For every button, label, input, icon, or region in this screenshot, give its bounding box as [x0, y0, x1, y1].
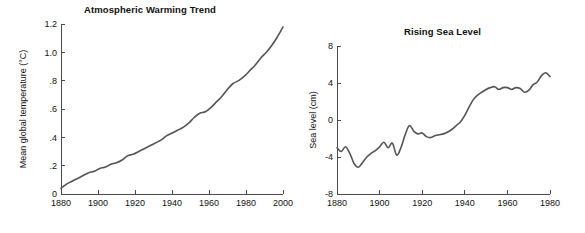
y-tick-label: .6 [49, 104, 57, 114]
climate-charts-figure: Atmospheric Warming Trend 0.2.4.6.81.01.… [0, 0, 585, 233]
data-series-line [337, 73, 550, 167]
x-tick-label: 1940 [455, 198, 475, 208]
x-tick-label: 1980 [540, 198, 560, 208]
x-tick-label: 1900 [88, 198, 108, 208]
y-tick-label: .8 [49, 76, 57, 86]
y-tick-label: 1.0 [44, 48, 57, 58]
y-tick-label: 4 [328, 78, 333, 88]
x-tick-label: 2000 [273, 198, 293, 208]
x-tick-label: 1920 [412, 198, 432, 208]
y-axis-title: Sea level (cm) [308, 91, 318, 149]
x-tick-label: 1980 [236, 198, 256, 208]
data-series-line [61, 27, 283, 189]
rising-sea-level-plot: -8-4048188019001920194019601980Sea level… [300, 0, 585, 233]
y-tick-label: 0 [328, 115, 333, 125]
chart-panel-rising-sea-level: Rising Sea Level -8-40481880190019201940… [300, 0, 585, 233]
chart-panel-atmospheric-warming: Atmospheric Warming Trend 0.2.4.6.81.01.… [0, 0, 300, 233]
x-tick-label: 1960 [497, 198, 517, 208]
y-tick-label: .4 [49, 133, 57, 143]
y-tick-label: -4 [325, 152, 333, 162]
y-tick-label: 8 [328, 41, 333, 51]
x-tick-label: 1920 [125, 198, 145, 208]
x-tick-label: 1880 [51, 198, 71, 208]
x-tick-label: 1900 [370, 198, 390, 208]
x-tick-label: 1940 [162, 198, 182, 208]
x-tick-label: 1880 [327, 198, 347, 208]
y-tick-label: 1.2 [44, 19, 57, 29]
x-tick-label: 1960 [199, 198, 219, 208]
atmospheric-warming-plot: 0.2.4.6.81.01.21880190019201940196019802… [0, 0, 300, 233]
y-tick-label: .2 [49, 161, 57, 171]
y-axis-title: Mean global temperature (°C) [18, 50, 28, 169]
